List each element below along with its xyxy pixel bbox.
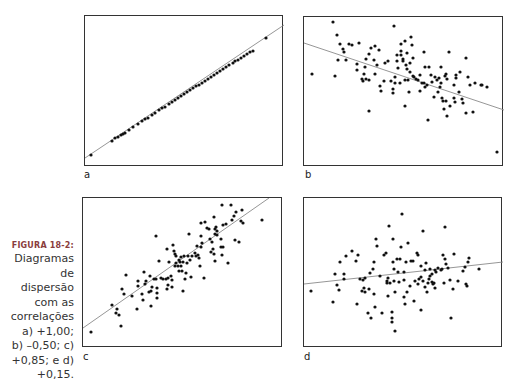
data-point [399, 53, 402, 56]
data-point [218, 69, 221, 72]
data-point [440, 96, 443, 99]
data-point [161, 277, 164, 280]
data-point [439, 81, 442, 84]
data-point [386, 294, 389, 297]
caption-line: com as [35, 296, 74, 309]
data-point [206, 77, 209, 80]
data-point [179, 255, 182, 258]
data-point [466, 260, 469, 263]
data-point [473, 81, 476, 84]
data-point [423, 285, 426, 288]
data-point [167, 102, 170, 105]
data-point [392, 24, 395, 27]
data-point [408, 61, 411, 64]
data-point [378, 274, 381, 277]
data-point [419, 264, 422, 267]
data-point [432, 95, 435, 98]
data-point [467, 256, 470, 259]
scatter-panel-b [303, 16, 503, 166]
data-point [444, 72, 447, 75]
data-point [374, 237, 377, 240]
data-point [391, 91, 394, 94]
data-point [333, 272, 336, 275]
data-point [464, 56, 467, 59]
data-point [146, 116, 149, 119]
data-point [386, 59, 389, 62]
data-point [203, 79, 206, 82]
data-point [171, 243, 174, 246]
data-point [444, 99, 447, 102]
data-point [176, 264, 179, 267]
data-point [405, 67, 408, 70]
data-point [463, 265, 466, 268]
data-point [188, 258, 191, 261]
data-point [409, 35, 412, 38]
data-point [427, 65, 430, 68]
data-point [456, 279, 459, 282]
data-point [202, 276, 205, 279]
data-point [383, 61, 386, 64]
data-point [449, 316, 452, 319]
data-point [471, 110, 474, 113]
data-point [114, 311, 117, 314]
data-point [367, 109, 370, 112]
data-point [136, 122, 139, 125]
data-point [154, 277, 157, 280]
data-point [366, 311, 369, 314]
data-point [173, 98, 176, 101]
data-point [372, 58, 375, 61]
data-point [396, 270, 399, 273]
data-point [443, 225, 446, 228]
data-point [485, 85, 488, 88]
data-point [182, 254, 185, 257]
data-point [461, 269, 464, 272]
data-point [245, 52, 248, 55]
data-point [163, 105, 166, 108]
data-point [364, 57, 367, 60]
data-point [441, 253, 444, 256]
data-point [221, 223, 224, 226]
data-point [150, 113, 153, 116]
data-point [113, 136, 116, 139]
panel-label-b: b [305, 169, 311, 180]
data-point [378, 84, 381, 87]
scatter-plot-a [85, 16, 284, 167]
data-point [210, 240, 213, 243]
data-point [239, 56, 242, 59]
data-point [363, 290, 366, 293]
data-point [410, 43, 413, 46]
data-point [388, 281, 391, 284]
data-point [120, 287, 123, 290]
data-point [165, 287, 168, 290]
data-point [122, 292, 125, 295]
data-point [170, 285, 173, 288]
data-point [195, 244, 198, 247]
panel-label-d: d [304, 351, 310, 362]
data-point [398, 81, 401, 84]
data-point [445, 77, 448, 80]
data-point [466, 75, 469, 78]
caption-line: +0,85; e d) [12, 354, 74, 367]
data-point [397, 280, 400, 283]
data-point [362, 72, 365, 75]
data-point [429, 73, 432, 76]
data-point [464, 111, 467, 114]
data-point [344, 254, 347, 257]
data-point [183, 277, 186, 280]
data-point [402, 295, 405, 298]
data-point [310, 72, 313, 75]
data-point [172, 249, 175, 252]
data-point [187, 232, 190, 235]
data-point [399, 245, 402, 248]
data-point [240, 208, 243, 211]
data-point [399, 42, 402, 45]
data-point [116, 135, 119, 138]
data-point [355, 302, 358, 305]
data-point [160, 106, 163, 109]
data-point [389, 79, 392, 82]
caption-line: de [60, 267, 74, 280]
data-point [124, 273, 127, 276]
data-point [149, 304, 152, 307]
caption-line: Diagramas [14, 252, 74, 265]
data-point [477, 267, 480, 270]
